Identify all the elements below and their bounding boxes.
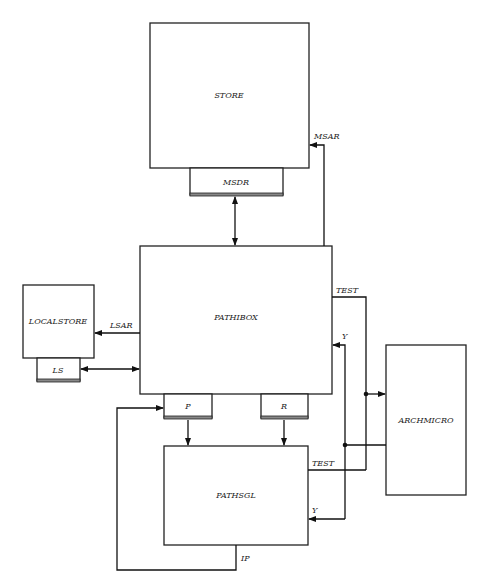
localstore-block: LOCALSTORE bbox=[23, 285, 94, 358]
pathsgl-label: PATHSGL bbox=[215, 491, 255, 500]
test-junction-dot bbox=[364, 392, 369, 397]
y-top-label: Y bbox=[342, 332, 348, 341]
r-label: R bbox=[280, 402, 287, 411]
msdr-register: MSDR bbox=[190, 168, 283, 196]
msdr-label: MSDR bbox=[222, 178, 249, 187]
p-label: P bbox=[184, 402, 191, 411]
lsar-label: LSAR bbox=[109, 321, 133, 330]
test-top-wire bbox=[332, 297, 366, 470]
p-register: P bbox=[164, 394, 212, 419]
store-label: STORE bbox=[214, 91, 243, 100]
block-diagram: STORE MSDR PATHIBOX LOCALSTORE LS P R AR… bbox=[0, 0, 488, 585]
msar-label: MSAR bbox=[313, 132, 339, 141]
ip-label: IP bbox=[240, 554, 250, 563]
localstore-label: LOCALSTORE bbox=[28, 317, 87, 326]
test-bottom-label: TEST bbox=[312, 459, 335, 468]
archmicro-block: ARCHMICRO bbox=[386, 345, 466, 495]
msar-wire bbox=[310, 145, 324, 246]
ls-label: LS bbox=[52, 366, 64, 375]
test-top-label: TEST bbox=[336, 286, 359, 295]
r-register: R bbox=[261, 394, 308, 419]
ls-register: LS bbox=[37, 358, 80, 382]
y-top-wire bbox=[333, 345, 345, 519]
pathibox-block: PATHIBOX bbox=[140, 246, 332, 394]
store-block: STORE bbox=[150, 23, 309, 168]
y-bottom-label: Y bbox=[312, 506, 318, 515]
pathsgl-block: PATHSGL bbox=[164, 446, 308, 545]
archmicro-label: ARCHMICRO bbox=[398, 416, 454, 425]
pathibox-label: PATHIBOX bbox=[213, 313, 258, 322]
